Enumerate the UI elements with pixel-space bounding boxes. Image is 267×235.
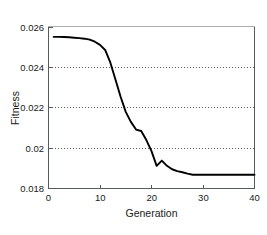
- y-axis-title: Fitness: [9, 91, 21, 125]
- x-tick-label-40: 40: [249, 192, 260, 203]
- x-tick-label-30: 30: [198, 192, 209, 203]
- x-tick-label-0: 0: [46, 192, 51, 203]
- x-tick-label-10: 10: [95, 192, 106, 203]
- y-tick-label-0.026: 0.026: [20, 22, 44, 33]
- x-axis-title: Generation: [126, 207, 178, 219]
- y-tick-label-0.024: 0.024: [20, 62, 44, 73]
- y-tick-label-0.02: 0.02: [26, 143, 45, 154]
- fitness-vs-generation-line-chart: 0.026 0.024 0.022 0.02 0.018 0 10 20 30 …: [0, 0, 267, 235]
- y-tick-label-0.022: 0.022: [20, 102, 44, 113]
- x-tick-label-20: 20: [147, 192, 158, 203]
- chart-background: [0, 0, 267, 235]
- y-tick-label-0.018: 0.018: [20, 183, 44, 194]
- figure-container: 0.026 0.024 0.022 0.02 0.018 0 10 20 30 …: [0, 0, 267, 235]
